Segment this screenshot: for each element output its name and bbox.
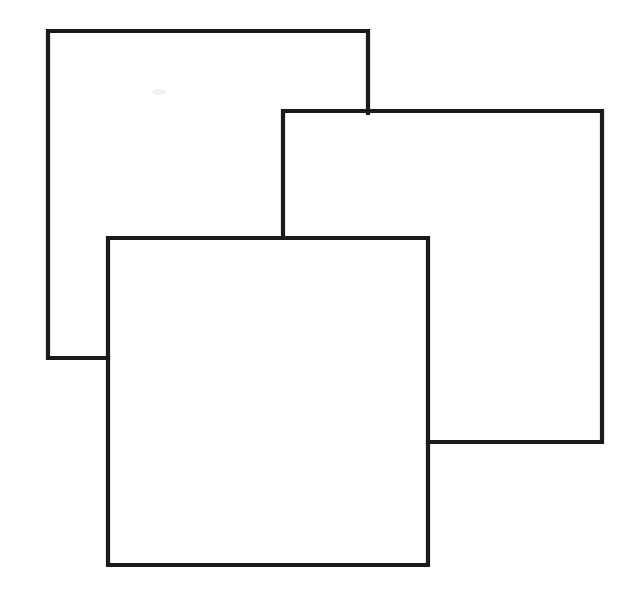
- scan-smudge-artifact: [152, 89, 166, 95]
- figure-canvas: Three Overlapping Squares: [0, 0, 627, 596]
- three-overlapping-squares-figure: Three Overlapping Squares: [0, 0, 627, 596]
- figure-background: [0, 0, 627, 596]
